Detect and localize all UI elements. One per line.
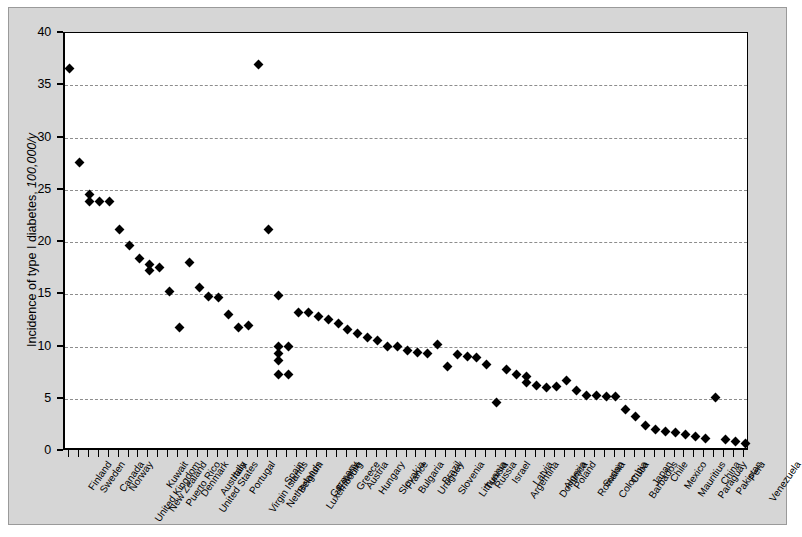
data-point (740, 439, 750, 449)
y-tick-label: 0 (44, 443, 51, 457)
x-tick-mark (237, 450, 238, 457)
x-tick-mark (544, 450, 545, 457)
x-tick-mark (316, 450, 317, 457)
data-point (641, 421, 651, 431)
x-tick-mark (257, 450, 258, 457)
data-point (432, 339, 442, 349)
gridline (65, 399, 747, 400)
x-tick-mark (187, 450, 188, 457)
x-tick-mark (276, 450, 277, 457)
data-point (194, 283, 204, 293)
data-point (273, 355, 283, 365)
data-point (65, 64, 75, 74)
data-point (95, 196, 105, 206)
x-tick-mark (197, 450, 198, 457)
data-point (710, 393, 720, 403)
gridline (65, 242, 747, 243)
x-tick-mark (475, 450, 476, 457)
x-tick-mark (306, 450, 307, 457)
data-point (542, 382, 552, 392)
x-tick-mark (554, 450, 555, 457)
data-point (561, 376, 571, 386)
x-tick-mark (356, 450, 357, 457)
x-tick-mark (98, 450, 99, 457)
x-tick-mark (386, 450, 387, 457)
x-tick-mark (396, 450, 397, 457)
gridline (65, 190, 747, 191)
data-point (105, 196, 115, 206)
x-tick-mark (495, 450, 496, 457)
data-point (303, 307, 313, 317)
x-tick-mark (535, 450, 536, 457)
data-point (730, 437, 740, 447)
x-tick-mark (406, 450, 407, 457)
data-point (681, 429, 691, 439)
data-point (601, 392, 611, 402)
data-point (422, 349, 432, 359)
x-tick-mark (296, 450, 297, 457)
data-point (273, 290, 283, 300)
x-tick-label: Cuba (628, 459, 651, 485)
x-tick-mark (614, 450, 615, 457)
x-tick-mark (247, 450, 248, 457)
x-tick-mark (465, 450, 466, 457)
x-tick-mark (574, 450, 575, 457)
x-tick-mark (683, 450, 684, 457)
data-point (452, 350, 462, 360)
x-tick-mark (326, 450, 327, 457)
data-point (700, 434, 710, 444)
data-point (383, 342, 393, 352)
x-tick-mark (723, 450, 724, 457)
x-tick-mark (366, 450, 367, 457)
x-tick-mark (455, 450, 456, 457)
x-tick-label: Peru (746, 459, 767, 483)
x-tick-mark (604, 450, 605, 457)
data-point (174, 323, 184, 333)
data-point (621, 404, 631, 414)
x-tick-mark (88, 450, 89, 457)
x-tick-mark (703, 450, 704, 457)
y-tick-label: 35 (37, 77, 51, 91)
y-tick-label: 10 (37, 339, 51, 353)
data-point (353, 329, 363, 339)
gridline (65, 138, 747, 139)
y-tick-label: 20 (37, 234, 51, 248)
x-tick-mark (674, 450, 675, 457)
x-tick-mark (167, 450, 168, 457)
x-tick-mark (415, 450, 416, 457)
data-point (204, 291, 214, 301)
data-point (264, 225, 274, 235)
data-point (313, 311, 323, 321)
x-tick-mark (78, 450, 79, 457)
x-tick-mark (425, 450, 426, 457)
x-tick-mark (485, 450, 486, 457)
x-tick-label: Venezuela (767, 459, 802, 504)
x-tick-mark (564, 450, 565, 457)
x-tick-mark (68, 450, 69, 457)
x-tick-mark (128, 450, 129, 457)
data-point (502, 365, 512, 375)
data-point (283, 370, 293, 380)
x-tick-mark (336, 450, 337, 457)
gridline (65, 85, 747, 86)
x-tick-mark (505, 450, 506, 457)
x-tick-mark (743, 450, 744, 457)
data-point (690, 431, 700, 441)
data-point (135, 254, 145, 264)
x-tick-mark (445, 450, 446, 457)
data-point (85, 196, 95, 206)
data-point (512, 370, 522, 380)
x-tick-mark (654, 450, 655, 457)
data-point (283, 342, 293, 352)
data-point (293, 307, 303, 317)
data-point (651, 424, 661, 434)
data-point (611, 392, 621, 402)
x-tick-mark (217, 450, 218, 457)
data-point (571, 385, 581, 395)
data-point (254, 59, 264, 69)
y-axis-label-prefix: Incidence of type I diabetes, (25, 188, 39, 347)
x-tick-mark (376, 450, 377, 457)
data-point (631, 412, 641, 422)
y-tick-label: 25 (37, 182, 51, 196)
x-tick-mark (733, 450, 734, 457)
